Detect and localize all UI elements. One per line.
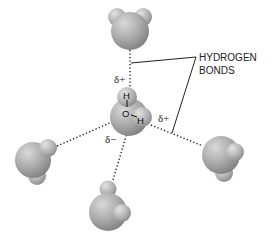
water-molecule-left: [15, 139, 57, 185]
hbond-left: [57, 122, 112, 146]
charge-label-top: δ+: [114, 73, 125, 85]
water-hydrogen-bond-diagram: H O H δ+ δ+ δ− HYDROGEN BONDS: [0, 0, 279, 243]
hbond-right: [151, 125, 203, 146]
charge-label-bottom-left: δ−: [105, 133, 116, 145]
hydrogen-bonds-label-line1: HYDROGEN: [199, 52, 257, 63]
atom-label-h-top: H: [123, 90, 130, 101]
water-molecule-bottom: [89, 181, 131, 232]
atom-label-h-right: H: [137, 115, 144, 126]
charge-label-right: δ+: [158, 112, 169, 124]
water-molecule-right: [202, 136, 244, 182]
hydrogen-bonds-label-line2: BONDS: [199, 65, 235, 76]
water-molecule-top: [108, 8, 152, 50]
atom-label-o: O: [122, 108, 129, 119]
water-molecule-center: H O H: [110, 87, 152, 136]
